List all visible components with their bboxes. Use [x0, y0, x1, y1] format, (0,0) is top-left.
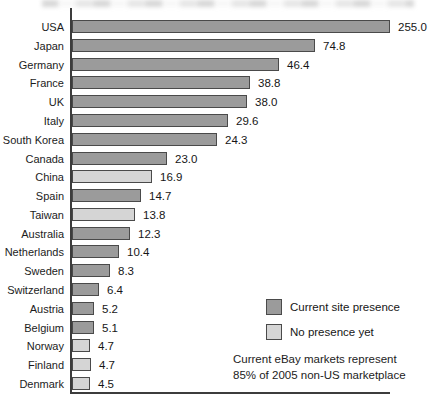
legend-swatch-current	[266, 299, 282, 315]
bar	[72, 170, 152, 183]
bar	[72, 377, 90, 390]
value-label: 38.8	[258, 76, 280, 90]
category-label: Austria	[0, 302, 64, 316]
value-label: 23.0	[175, 152, 197, 166]
footnote-line-1: Current eBay markets represent	[233, 352, 428, 368]
category-label: USA	[0, 20, 64, 34]
x-axis-line	[70, 392, 390, 394]
bar	[72, 321, 94, 334]
bar	[72, 95, 247, 108]
bar	[72, 208, 135, 221]
bar	[72, 189, 141, 202]
value-label: 38.0	[255, 95, 277, 109]
value-label: 74.8	[323, 39, 345, 53]
category-label: UK	[0, 95, 64, 109]
category-label: Netherlands	[0, 245, 64, 259]
value-label: 4.5	[98, 377, 114, 391]
value-label: 8.3	[118, 264, 134, 278]
category-label: Sweden	[0, 264, 64, 278]
bar	[72, 114, 228, 127]
category-label: Norway	[0, 339, 64, 353]
category-label: Italy	[0, 114, 64, 128]
value-label: 29.6	[236, 114, 258, 128]
bar	[72, 283, 99, 296]
value-label: 24.3	[225, 133, 247, 147]
category-label: Belgium	[0, 321, 64, 335]
value-label: 12.3	[138, 227, 160, 241]
bar-chart: USA255.0Japan74.8Germany46.4France38.8UK…	[0, 0, 432, 407]
value-label: 5.1	[102, 321, 118, 335]
category-label: China	[0, 170, 64, 184]
value-label: 10.4	[127, 245, 149, 259]
footnote-line-2: 85% of 2005 non-US marketplace	[233, 368, 428, 384]
category-label: France	[0, 76, 64, 90]
value-label: 46.4	[287, 58, 309, 72]
category-label: Spain	[0, 189, 64, 203]
bar	[72, 133, 217, 146]
category-label: Taiwan	[0, 208, 64, 222]
value-label: 6.4	[107, 283, 123, 297]
category-label: Japan	[0, 39, 64, 53]
category-label: Denmark	[0, 377, 64, 391]
bar	[72, 76, 250, 89]
category-label: Canada	[0, 152, 64, 166]
legend-entry-none: No presence yet	[266, 324, 426, 341]
footnote: Current eBay markets represent 85% of 20…	[233, 352, 428, 383]
bar	[72, 245, 119, 258]
value-label: 255.0	[398, 20, 427, 34]
category-label: South Korea	[0, 133, 64, 147]
legend-entry-current: Current site presence	[266, 299, 426, 316]
bar	[72, 264, 110, 277]
legend-swatch-none	[266, 324, 282, 340]
value-label: 5.2	[102, 302, 118, 316]
legend-label-current: Current site presence	[290, 299, 400, 316]
value-label: 14.7	[149, 189, 171, 203]
bar	[72, 339, 90, 352]
category-label: Germany	[0, 58, 64, 72]
bar	[72, 227, 130, 240]
category-label: Switzerland	[0, 283, 64, 297]
value-label: 16.9	[160, 170, 182, 184]
bar	[72, 152, 167, 165]
bar	[72, 58, 279, 71]
scan-artifact	[42, 0, 414, 7]
category-label: Australia	[0, 227, 64, 241]
legend-label-none: No presence yet	[290, 324, 374, 341]
value-label: 13.8	[143, 208, 165, 222]
value-label: 4.7	[98, 339, 114, 353]
value-label: 4.7	[99, 358, 115, 372]
category-label: Finland	[0, 358, 64, 372]
bar	[72, 39, 315, 52]
bar	[72, 358, 91, 371]
bar	[72, 20, 390, 33]
legend: Current site presence No presence yet	[266, 299, 426, 349]
bar	[72, 302, 94, 315]
